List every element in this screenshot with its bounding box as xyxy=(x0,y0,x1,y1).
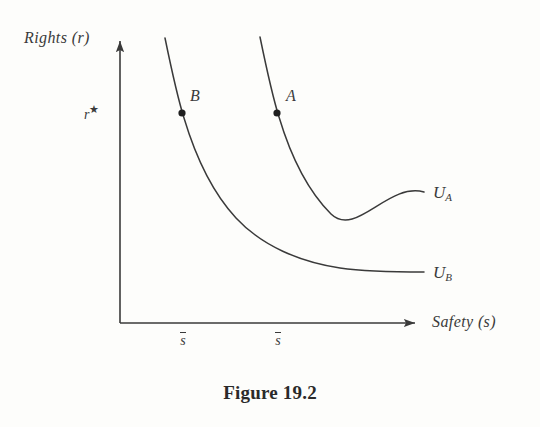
indifference-curve-ua xyxy=(260,37,424,220)
data-point-b xyxy=(178,109,185,116)
x-axis-tick-label-s-bar-1: s xyxy=(174,332,192,348)
y-axis-title: Rights (r) xyxy=(24,30,90,46)
point-label-a: A xyxy=(286,88,296,104)
curve-label-ua-base: U xyxy=(433,183,445,202)
indifference-curve-plot xyxy=(0,0,540,427)
curve-label-ub-base: U xyxy=(433,263,445,282)
x-axis-tick-label-s-bar-2: s xyxy=(269,332,287,348)
figure-caption: Figure 19.2 xyxy=(0,382,540,404)
star-icon: ★ xyxy=(89,103,99,115)
curve-label-ub-subscript: B xyxy=(445,271,452,283)
data-point-a xyxy=(273,109,280,116)
x-tick-2-letter: s xyxy=(275,332,280,348)
x-tick-1-letter: s xyxy=(180,332,185,348)
x-axis-title: Safety (s) xyxy=(432,314,496,330)
curve-label-ua: UA xyxy=(433,184,452,203)
curve-label-ub: UB xyxy=(433,264,452,283)
indifference-curve-ub xyxy=(165,38,424,272)
point-label-b: B xyxy=(190,88,200,104)
figure-container: Rights (r) Safety (s) r★ s s B A UA UB F… xyxy=(0,0,540,427)
curve-label-ua-subscript: A xyxy=(445,191,452,203)
y-axis-tick-label-r-star: r★ xyxy=(84,104,99,122)
